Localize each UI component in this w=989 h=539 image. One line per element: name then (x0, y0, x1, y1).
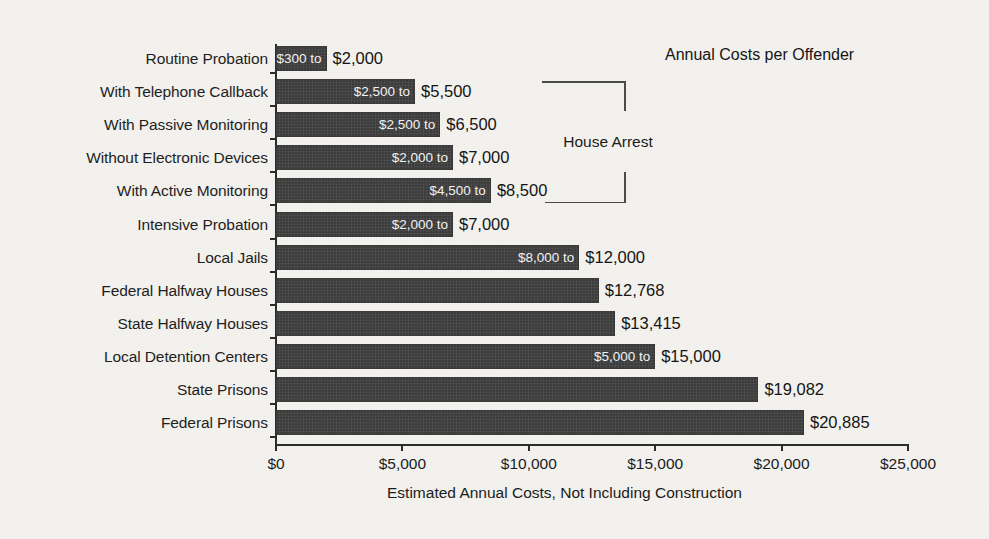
bar-row: State Halfway Houses$13,415 (276, 311, 908, 344)
x-axis-tick-label: $25,000 (880, 455, 936, 473)
category-label: Local Jails (197, 245, 268, 270)
category-label: Without Electronic Devices (86, 145, 268, 170)
x-axis-title-text: Estimated Annual Costs, Not Including Co… (387, 484, 742, 502)
bar-value-label: $12,768 (599, 278, 665, 303)
bar-range-low-label: $2,500 to (379, 112, 440, 137)
bar: $2,000 to (276, 145, 453, 170)
bar (276, 278, 599, 303)
category-label: Federal Prisons (161, 410, 268, 435)
y-axis-tick (270, 72, 276, 74)
bar-value-label: $13,415 (615, 311, 681, 336)
y-axis-tick (270, 171, 276, 173)
bar-row: State Prisons$19,082 (276, 377, 908, 410)
x-axis-tick (275, 444, 277, 451)
bar: $2,000 to (276, 212, 453, 237)
y-axis-tick (270, 436, 276, 438)
x-axis-tick-label: $0 (267, 455, 284, 473)
bar-value-label: $5,500 (415, 79, 471, 104)
category-label: Local Detention Centers (104, 344, 268, 369)
x-axis-tick (781, 444, 783, 451)
bar-row: Local Jails$8,000 to$12,000 (276, 245, 908, 278)
bar-row: With Active Monitoring$4,500 to$8,500 (276, 178, 908, 211)
plot-area: Routine Probation$300 to$2,000With Telep… (276, 46, 908, 443)
bar-row: With Passive Monitoring$2,500 to$6,500 (276, 112, 908, 145)
bar-value-label: $6,500 (440, 112, 496, 137)
category-label: Federal Halfway Houses (101, 278, 268, 303)
x-axis-title: Estimated Annual Costs, Not Including Co… (0, 484, 989, 502)
x-axis-tick (907, 444, 909, 451)
bar-value-label: $2,000 (327, 46, 383, 71)
y-axis-tick (270, 271, 276, 273)
bar-value-label: $7,000 (453, 145, 509, 170)
x-axis-tick-label: $5,000 (379, 455, 426, 473)
y-axis-tick (270, 370, 276, 372)
category-label: State Prisons (177, 377, 268, 402)
bar: $2,500 to (276, 79, 415, 104)
bar-row: With Telephone Callback$2,500 to$5,500 (276, 79, 908, 112)
bar-value-label: $19,082 (758, 377, 824, 402)
y-axis-tick (270, 304, 276, 306)
bar: $8,000 to (276, 245, 579, 270)
category-label: Intensive Probation (137, 212, 268, 237)
x-axis-tick (654, 444, 656, 451)
bar-range-low-label: $2,000 to (392, 145, 453, 170)
bar-value-label: $8,500 (491, 178, 547, 203)
bar-row: Without Electronic Devices$2,000 to$7,00… (276, 145, 908, 178)
x-axis-line (275, 444, 909, 446)
bar-range-low-label: $8,000 to (518, 245, 579, 270)
bar-range-low-label: $4,500 to (430, 178, 491, 203)
x-axis-tick-label: $15,000 (627, 455, 683, 473)
bar-row: Federal Prisons$20,885 (276, 410, 908, 443)
y-axis-tick (270, 403, 276, 405)
bar: $2,500 to (276, 112, 440, 137)
bar: $300 to (276, 46, 327, 71)
y-axis-tick (270, 105, 276, 107)
category-label: With Active Monitoring (117, 178, 268, 203)
y-axis-tick (270, 337, 276, 339)
y-axis-tick (270, 138, 276, 140)
bar (276, 410, 804, 435)
category-label: State Halfway Houses (118, 311, 269, 336)
category-label: Routine Probation (146, 46, 268, 71)
x-axis-tick-label: $20,000 (754, 455, 810, 473)
y-axis-tick (270, 238, 276, 240)
bar-range-low-label: $2,500 to (354, 79, 415, 104)
bar-range-low-label: $5,000 to (594, 344, 655, 369)
y-axis-tick (270, 204, 276, 206)
category-label: With Passive Monitoring (104, 112, 268, 137)
bar-row: Local Detention Centers$5,000 to$15,000 (276, 344, 908, 377)
bar: $5,000 to (276, 344, 655, 369)
bar (276, 311, 615, 336)
bar-value-label: $20,885 (804, 410, 870, 435)
bar-row: Federal Halfway Houses$12,768 (276, 278, 908, 311)
bar-row: Intensive Probation$2,000 to$7,000 (276, 212, 908, 245)
bar-value-label: $7,000 (453, 212, 509, 237)
bar (276, 377, 758, 402)
bar-range-low-label: $2,000 to (392, 212, 453, 237)
bar: $4,500 to (276, 178, 491, 203)
x-axis-tick-label: $10,000 (501, 455, 557, 473)
bar-value-label: $15,000 (655, 344, 721, 369)
bar-range-low-label: $300 to (277, 46, 327, 71)
bar-value-label: $12,000 (579, 245, 645, 270)
x-axis-tick (401, 444, 403, 451)
x-axis-tick (528, 444, 530, 451)
bar-row: Routine Probation$300 to$2,000 (276, 46, 908, 79)
bar-chart: Annual Costs per Offender House Arrest R… (0, 0, 989, 539)
category-label: With Telephone Callback (100, 79, 268, 104)
